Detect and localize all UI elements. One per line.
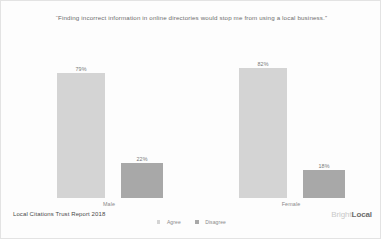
legend-swatch-agree-icon (157, 220, 161, 224)
brand-logo: BrightLocal (331, 210, 372, 219)
legend-label-agree: Agree (167, 219, 181, 225)
legend-swatch-disagree-icon (195, 220, 199, 224)
bar-rect-male-disagree (121, 163, 163, 198)
chart-footer: Local Citations Trust Report 2018 Agree … (1, 209, 381, 229)
category-label-male: Male (47, 201, 171, 207)
bar-female-agree[interactable]: 82% (239, 68, 287, 198)
legend-item-agree[interactable]: Agree (157, 212, 181, 230)
brand-logo-local: Local (352, 210, 372, 219)
legend-label-disagree: Disagree (205, 219, 226, 225)
brand-logo-bright: Bright (331, 210, 351, 219)
chart-legend: Agree Disagree (1, 212, 381, 230)
bar-value-male-disagree: 22% (121, 156, 163, 162)
bar-male-agree[interactable]: 79% (57, 73, 105, 198)
bar-group-male: 79% 22% (47, 31, 171, 198)
bar-value-male-agree: 79% (57, 66, 105, 72)
bar-female-disagree[interactable]: 18% (303, 170, 345, 198)
legend-item-disagree[interactable]: Disagree (195, 212, 226, 230)
bar-male-disagree[interactable]: 22% (121, 163, 163, 198)
category-label-female: Female (229, 201, 353, 207)
chart-title: “Finding incorrect information in online… (1, 13, 381, 22)
bar-rect-male-agree (57, 73, 105, 198)
bar-rect-female-disagree (303, 170, 345, 198)
chart-card: “Finding incorrect information in online… (0, 0, 381, 239)
bar-value-female-disagree: 18% (303, 163, 345, 169)
plot-area: 79% 22% 82% 18% (1, 31, 381, 198)
bar-group-female: 82% 18% (229, 31, 353, 198)
bar-value-female-agree: 82% (239, 61, 287, 67)
bar-rect-female-agree (239, 68, 287, 198)
